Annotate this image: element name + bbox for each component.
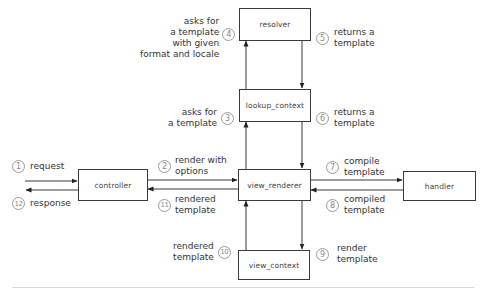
step-10: rendered template 10 <box>173 241 231 263</box>
controller-label: controller <box>95 181 132 190</box>
resolver-box: resolver <box>239 8 311 41</box>
step-11: 11 rendered template <box>158 194 216 216</box>
step-number-badge: 6 <box>316 112 329 125</box>
bottom-divider <box>12 287 474 288</box>
step-number-badge: 11 <box>158 199 171 212</box>
step-label: rendered template <box>173 241 214 263</box>
step-label: compile template <box>344 156 385 178</box>
step-label: request <box>30 161 64 172</box>
step-12: 12 response <box>12 197 71 210</box>
step-number-badge: 5 <box>316 32 329 45</box>
view-context-box: view_context <box>238 250 310 280</box>
step-number-badge: 9 <box>316 248 329 261</box>
step-number-badge: 10 <box>218 246 231 259</box>
step-label: asks for a template <box>168 107 217 129</box>
lookup-context-label: lookup_context <box>246 101 304 110</box>
step-3: asks for a template 3 <box>168 107 234 129</box>
handler-label: handler <box>425 182 454 191</box>
step-number-badge: 7 <box>326 161 339 174</box>
step-number-badge: 3 <box>221 112 234 125</box>
handler-box: handler <box>403 171 476 201</box>
step-5: 5 returns a template <box>316 27 375 49</box>
step-1: 1 request <box>12 160 64 173</box>
view-renderer-label: view_renderer <box>247 181 302 190</box>
controller-box: controller <box>78 169 148 201</box>
view-renderer-box: view_renderer <box>238 169 311 201</box>
step-8: 8 compiled template <box>326 194 385 216</box>
step-number-badge: 2 <box>158 160 171 173</box>
step-number-badge: 1 <box>12 160 25 173</box>
step-6: 6 returns a template <box>316 107 375 129</box>
step-2: 2 render with options <box>158 155 227 177</box>
view-context-label: view_context <box>249 261 300 270</box>
step-label: returns a template <box>334 107 375 129</box>
step-label: response <box>30 198 71 209</box>
step-9: 9 render template <box>316 243 378 265</box>
step-number-badge: 8 <box>326 199 339 212</box>
resolver-label: resolver <box>259 20 290 29</box>
step-label: render template <box>337 243 378 265</box>
step-number-badge: 12 <box>12 197 25 210</box>
step-label: render with options <box>175 155 227 177</box>
step-label: rendered template <box>175 194 216 216</box>
request-flow-diagram: resolver lookup_context view_renderer vi… <box>0 0 486 296</box>
step-7: 7 compile template <box>326 156 385 178</box>
step-4: asks for a template with given format an… <box>140 16 235 60</box>
lookup-context-box: lookup_context <box>239 89 311 122</box>
step-label: returns a template <box>334 27 375 49</box>
step-number-badge: 4 <box>222 28 235 41</box>
step-label: asks for a template with given format an… <box>140 16 219 60</box>
step-label: compiled template <box>344 194 385 216</box>
